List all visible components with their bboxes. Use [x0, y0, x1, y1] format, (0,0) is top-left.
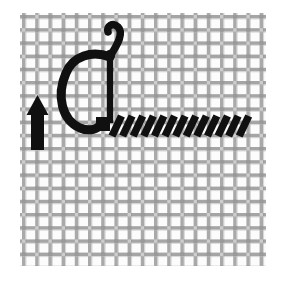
fabric-canvas [0, 0, 282, 281]
stitch-diagram-figure: Needle and thread working a row of slant… [0, 0, 282, 281]
